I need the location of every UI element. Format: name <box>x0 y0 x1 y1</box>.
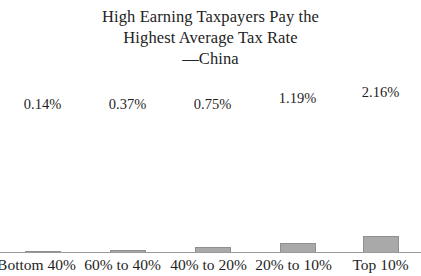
category-label-top-10: Top 10% <box>340 254 421 275</box>
chart-title-line-2: Highest Average Tax Rate <box>0 27 421 48</box>
chart-title: High Earning Taxpayers Pay the Highest A… <box>0 6 421 69</box>
bar-group-3: 1.19% <box>255 96 340 253</box>
bar-rect[interactable] <box>363 236 399 253</box>
bar-value-label: 2.16% <box>362 84 399 101</box>
bar-value-label: 0.37% <box>109 96 146 113</box>
category-axis: Bottom 40% 60% to 40% 40% to 20% 20% to … <box>0 254 421 276</box>
chart-figure: High Earning Taxpayers Pay the Highest A… <box>0 0 421 276</box>
category-label-60-to-40: 60% to 40% <box>80 254 165 275</box>
category-label-20-to-10: 20% to 10% <box>251 254 336 275</box>
bar-group-2: 0.75% <box>170 96 255 253</box>
bar-group-4: 2.16% <box>340 96 421 253</box>
plot-area: 0.14% 0.37% 0.75% 1.19% 2.16% <box>0 96 421 253</box>
category-label-40-to-20: 40% to 20% <box>166 254 251 275</box>
category-label-bottom-40: Bottom 40% <box>0 254 79 275</box>
bar-value-label: 0.14% <box>24 96 61 113</box>
bar-group-1: 0.37% <box>85 96 170 253</box>
bar-group-0: 0.14% <box>0 96 85 253</box>
axis-baseline <box>0 252 421 253</box>
chart-title-line-3: —China <box>0 48 421 69</box>
chart-title-line-1: High Earning Taxpayers Pay the <box>0 6 421 27</box>
bar-value-label: 0.75% <box>194 96 231 113</box>
bar-value-label: 1.19% <box>279 90 316 107</box>
